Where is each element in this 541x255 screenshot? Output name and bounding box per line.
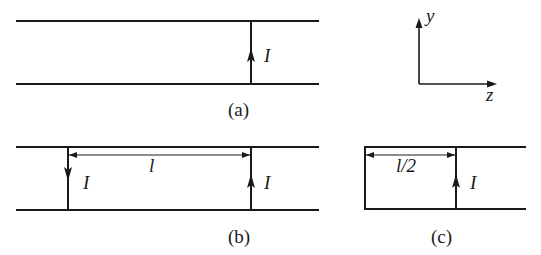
- waveguide-figure: I (a) y z I I l (b) I l/2 (c): [0, 0, 541, 255]
- panel-c: I l/2 (c): [364, 146, 526, 248]
- current-label: I: [469, 172, 478, 193]
- y-axis-label: y: [424, 5, 435, 26]
- panel-caption: (b): [228, 226, 250, 248]
- dimension-label: l/2: [396, 155, 417, 176]
- current-label-left: I: [82, 172, 91, 193]
- coordinate-axes: y z: [416, 5, 498, 105]
- panel-caption: (a): [228, 99, 249, 121]
- dimension-label: l: [149, 155, 154, 176]
- current-label: I: [263, 45, 272, 66]
- current-label-right: I: [263, 172, 272, 193]
- z-axis-label: z: [485, 84, 494, 105]
- panel-b: I I l (b): [16, 147, 319, 248]
- panel-caption: (c): [431, 226, 452, 248]
- y-axis-arrow-icon: [416, 18, 423, 28]
- panel-a: I (a): [16, 21, 319, 121]
